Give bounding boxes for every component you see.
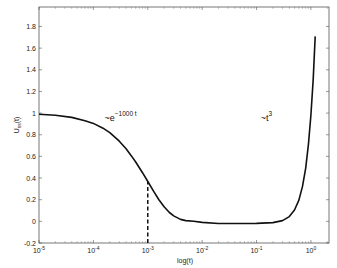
y-tick-label: 1.4 [26, 66, 36, 73]
y-tick-label: 0.8 [26, 131, 36, 138]
y-tick-label: 1.2 [26, 88, 36, 95]
chart: -0.200.20.40.60.811.21.41.61.8 10-510-41… [0, 0, 337, 268]
x-tick-label: 10-5 [33, 245, 45, 254]
y-axis-label-text: Uss(t) [13, 117, 22, 134]
y-tick-label: 1.6 [26, 45, 36, 52]
y-axis-label: Uss(t) [13, 117, 22, 134]
plot-area [39, 7, 329, 243]
x-tick-label: 100 [306, 245, 317, 254]
y-tick-label: 0.2 [26, 196, 36, 203]
y-tick-label: -0.2 [24, 240, 36, 247]
x-tick-label: 10-2 [196, 245, 208, 254]
y-tick-label: 1 [32, 110, 36, 117]
y-tick-label: 1.8 [26, 23, 36, 30]
x-tick-label: 10-1 [250, 245, 262, 254]
y-tick-label: 0.4 [26, 175, 36, 182]
y-tick-label: 0.6 [26, 153, 36, 160]
x-tick-label: 10-4 [87, 245, 99, 254]
y-tick-label: 0 [32, 218, 36, 225]
x-tick-label: 10-3 [142, 245, 154, 254]
x-axis-label: log(t) [177, 257, 193, 265]
